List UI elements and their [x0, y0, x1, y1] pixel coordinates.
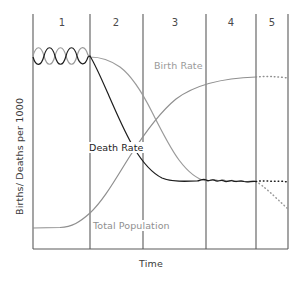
- stage-label-5: 5: [261, 17, 283, 28]
- series-line-birth-rate-projected: [256, 182, 288, 210]
- series-label-birth-rate: Birth Rate: [154, 60, 203, 71]
- series-line-total-population-projected: [256, 76, 288, 78]
- stage-label-4: 4: [220, 17, 242, 28]
- y-axis-title: Births/ Deaths per 1000: [14, 98, 25, 215]
- series-label-total-population: Total Population: [92, 220, 171, 231]
- stage-label-2: 2: [105, 17, 127, 28]
- stage-label-1: 1: [51, 17, 73, 28]
- demographic-transition-chart: 1 2 3 4 5 Birth Rate Death Rate Total Po…: [0, 0, 302, 284]
- series-line-death-rate: [33, 48, 256, 182]
- series-line-death-rate-projected: [256, 181, 288, 182]
- series-label-death-rate: Death Rate: [88, 142, 145, 153]
- stage-label-3: 3: [164, 17, 186, 28]
- series-line-birth-rate: [33, 48, 256, 182]
- x-axis-title: Time: [0, 258, 302, 269]
- chart-plot-area: [0, 0, 302, 284]
